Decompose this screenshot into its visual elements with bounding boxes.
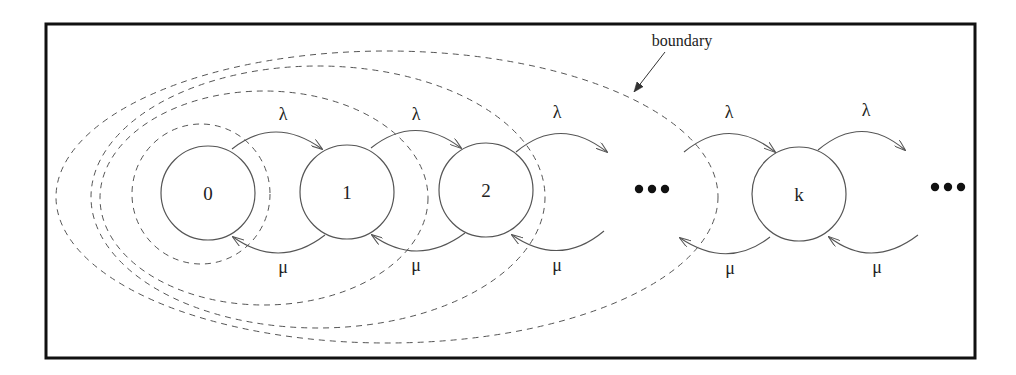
arrival-rate-label-1: λ xyxy=(412,104,421,124)
service-arrow-k-prev xyxy=(680,237,770,254)
service-arrow-next-k xyxy=(829,235,918,253)
service-rate-label-1: μ xyxy=(411,255,421,275)
state-2-label: 2 xyxy=(481,180,491,201)
arrival-rate-label-0: λ xyxy=(279,104,288,124)
state-0-label: 0 xyxy=(203,183,213,204)
service-rate-label-3: μ xyxy=(725,258,735,278)
service-rate-label-2: μ xyxy=(552,255,562,275)
arrival-arrow-k-next xyxy=(818,132,905,151)
state-diagram: 0 1 2 k λ λ λ λ λ μ μ μ μ μ boundary xyxy=(0,0,1016,375)
arrival-arrow-1-2 xyxy=(371,131,461,149)
state-1-label: 1 xyxy=(342,182,352,203)
state-k-label: k xyxy=(794,184,804,205)
service-arrow-1-0 xyxy=(233,235,325,253)
service-rate-label-4: μ xyxy=(872,257,882,277)
boundary-pointer-arrow xyxy=(634,52,665,92)
ellipsis-dots-right xyxy=(931,183,965,191)
ellipsis-dots-middle xyxy=(635,185,669,193)
service-arrow-next-2 xyxy=(512,231,604,251)
arrival-rate-label-2: λ xyxy=(553,102,562,122)
arrival-arrow-prev-k xyxy=(684,134,775,153)
arrival-arrow-0-1 xyxy=(232,132,322,149)
arrival-rate-label-4: λ xyxy=(862,100,871,120)
arrival-rate-label-3: λ xyxy=(725,102,734,122)
boundary-annotation-label: boundary xyxy=(652,32,712,50)
service-rate-label-0: μ xyxy=(278,257,288,277)
service-arrow-2-1 xyxy=(372,233,465,251)
